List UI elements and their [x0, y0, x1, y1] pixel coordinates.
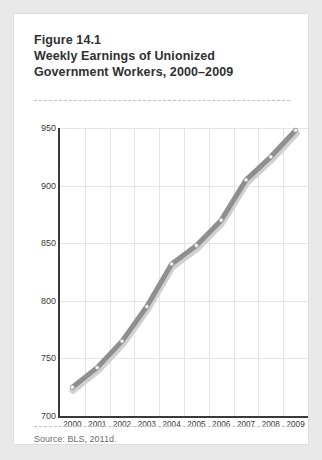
- data-point-marker: [219, 218, 223, 222]
- y-tick-label: 950: [16, 123, 56, 133]
- data-point-marker: [71, 385, 75, 389]
- data-point-marker: [244, 178, 248, 182]
- figure-title-line-1: Weekly Earnings of Unionized: [34, 48, 290, 64]
- data-point-marker: [170, 262, 174, 266]
- data-point-marker: [145, 305, 149, 309]
- x-tick-label: 2009: [281, 420, 311, 429]
- y-tick-label: 800: [16, 296, 56, 306]
- divider-top: [34, 100, 290, 101]
- data-point-marker: [294, 128, 298, 132]
- chart-plot-area: 700750800850900950 200020012002200320042…: [58, 128, 308, 418]
- earnings-line-series: [58, 128, 308, 418]
- series-line-shadow: [73, 133, 296, 390]
- data-point-marker: [120, 339, 124, 343]
- page-title: Figure 14.1 Weekly Earnings of Unionized…: [34, 32, 290, 80]
- y-tick-label: 700: [16, 411, 56, 421]
- source-note: Source: BLS, 2011d.: [34, 434, 116, 444]
- figure-number: Figure 14.1: [34, 32, 290, 48]
- y-tick-label: 900: [16, 181, 56, 191]
- data-point-marker: [195, 244, 199, 248]
- figure-title-line-2: Government Workers, 2000–2009: [34, 64, 290, 80]
- data-point-marker: [269, 155, 273, 159]
- divider-bottom: [34, 426, 290, 427]
- y-tick-label: 850: [16, 238, 56, 248]
- y-tick-label: 750: [16, 353, 56, 363]
- data-point-marker: [95, 366, 99, 370]
- figure-card: Figure 14.1 Weekly Earnings of Unionized…: [14, 14, 308, 444]
